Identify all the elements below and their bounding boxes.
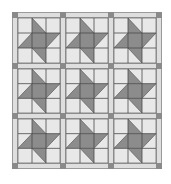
cornerstone: [12, 12, 18, 18]
cornerstone: [156, 113, 162, 119]
cornerstone: [60, 12, 66, 18]
cornerstone: [60, 113, 66, 119]
cornerstone: [108, 63, 114, 69]
cornerstone: [108, 163, 114, 169]
cornerstone: [12, 163, 18, 169]
quilt-svg: [12, 12, 162, 169]
cornerstone: [156, 12, 162, 18]
cornerstone: [60, 163, 66, 169]
cornerstone: [108, 113, 114, 119]
cornerstone: [156, 63, 162, 69]
cornerstone: [108, 12, 114, 18]
cornerstone: [12, 63, 18, 69]
cornerstone: [12, 113, 18, 119]
quilt-diagram: [12, 12, 162, 169]
cornerstone: [60, 63, 66, 69]
cornerstone: [156, 163, 162, 169]
